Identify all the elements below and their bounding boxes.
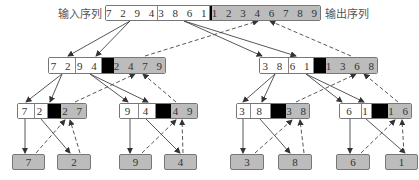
root-right-half: 3 8 6 1 — [158, 6, 210, 20]
level2-right-separator — [314, 58, 325, 73]
level3-array-3: 3 8 3 8 — [236, 103, 310, 119]
level2-right-array: 3 8 6 1 1 3 6 8 — [259, 57, 378, 74]
level2-left-array: 7 2 9 4 2 4 7 9 — [48, 57, 166, 74]
leaf-node: 6 — [336, 154, 370, 170]
level2-right-sorted: 1 3 6 8 — [326, 58, 377, 73]
level3-1-separator — [48, 104, 61, 118]
level3-2-right: 4 — [139, 104, 156, 118]
level3-2-left: 9 — [120, 104, 139, 118]
output-sequence-label: 输出序列 — [325, 5, 369, 21]
leaf-node: 4 — [164, 154, 197, 170]
input-sequence-label: 输入序列 — [58, 5, 102, 21]
root-sorted: 1 2 3 4 6 7 8 9 — [212, 6, 320, 20]
root-left-half: 7 2 9 4 — [106, 6, 158, 20]
level3-4-sorted: 1 6 — [388, 104, 411, 118]
leaf-node: 3 — [230, 154, 264, 170]
leaf-node: 1 — [385, 154, 418, 170]
level3-4-left: 6 — [340, 104, 362, 118]
level3-1-sorted: 2 7 — [61, 104, 86, 118]
arrows-layer — [0, 0, 419, 180]
leaf-node: 2 — [57, 154, 91, 170]
level2-left-sorted: 2 4 7 9 — [114, 58, 165, 73]
merge-arrows — [36, 21, 404, 153]
leaf-node: 8 — [278, 154, 312, 170]
level2-left-separator — [102, 58, 114, 73]
level3-3-right: 8 — [251, 104, 272, 118]
level2-right-right-half: 6 1 — [289, 58, 314, 73]
divide-arrows — [25, 21, 405, 153]
level3-2-sorted: 4 9 — [171, 104, 197, 118]
level3-4-separator — [372, 104, 388, 118]
level3-1-right: 2 — [35, 104, 48, 118]
level3-1-left: 7 — [18, 104, 35, 118]
leaf-node: 9 — [119, 154, 152, 170]
level2-left-left-half: 7 2 — [49, 58, 76, 73]
level2-left-right-half: 9 4 — [76, 58, 101, 73]
leaf-node: 7 — [12, 154, 45, 170]
root-array: 7 2 9 4 3 8 6 1 1 2 3 4 6 7 8 9 — [105, 5, 321, 21]
level3-array-2: 9 4 4 9 — [119, 103, 198, 119]
level3-3-sorted: 3 8 — [286, 104, 309, 118]
level3-4-right: 1 — [362, 104, 372, 118]
level3-3-separator — [271, 104, 286, 118]
level3-3-left: 3 — [237, 104, 251, 118]
level2-right-left-half: 3 8 — [260, 58, 289, 73]
level3-array-4: 6 1 1 6 — [339, 103, 412, 119]
level3-array-1: 7 2 2 7 — [17, 103, 87, 119]
level3-2-separator — [156, 104, 171, 118]
